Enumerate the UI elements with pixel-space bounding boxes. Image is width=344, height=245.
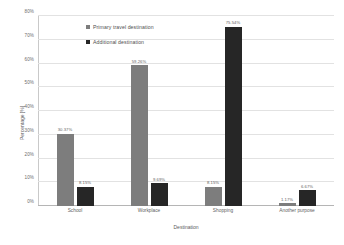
bar[interactable]: 75.54%	[225, 27, 242, 206]
bar-value-label: 1.17%	[281, 197, 293, 202]
bar[interactable]: 8.15%	[77, 187, 94, 206]
bar-value-label: 6.67%	[301, 184, 313, 189]
legend-label: Additional destination	[93, 39, 144, 45]
y-axis-tick-label: 60%	[25, 56, 35, 61]
y-axis-tick-label: 10%	[25, 175, 35, 180]
bar-value-label: 9.69%	[153, 177, 165, 182]
bar-slot: 75.54%	[225, 16, 242, 206]
legend-label: Primary travel destination	[93, 24, 154, 30]
bar-value-label: 59.26%	[132, 59, 147, 64]
x-axis-tick-label: Workplace	[112, 208, 186, 213]
x-axis-tick-label: Shopping	[186, 208, 260, 213]
bar-value-label: 8.15%	[79, 180, 91, 185]
legend-item[interactable]: Additional destination	[86, 39, 154, 45]
y-axis-tick-label: 20%	[25, 151, 35, 156]
bar-slot: 1.17%	[279, 16, 296, 206]
legend-item[interactable]: Primary travel destination	[86, 24, 154, 30]
y-axis-tick-label: 30%	[25, 127, 35, 132]
bar-groups: 30.37%8.15%59.26%9.69%8.15%75.54%1.17%6.…	[38, 16, 334, 206]
bar-slot: 6.67%	[299, 16, 316, 206]
bar[interactable]: 6.67%	[299, 190, 316, 206]
bar-group: 1.17%6.67%	[260, 16, 334, 206]
bar-slot: 30.37%	[57, 16, 74, 206]
x-axis-ticks: SchoolWorkplaceShoppingAnother purpose	[38, 208, 334, 213]
bar[interactable]: 1.17%	[279, 203, 296, 206]
bar-slot: 8.15%	[205, 16, 222, 206]
legend: Primary travel destinationAdditional des…	[86, 24, 154, 54]
bar[interactable]: 8.15%	[205, 187, 222, 206]
bar-chart: Percentage [%] 0%10%20%30%40%50%60%70%80…	[0, 0, 344, 245]
legend-swatch-icon	[86, 40, 90, 44]
bar[interactable]: 30.37%	[57, 134, 74, 206]
y-axis-tick-label: 70%	[25, 32, 35, 37]
bar-value-label: 75.54%	[226, 20, 241, 25]
y-axis-tick-label: 50%	[25, 80, 35, 85]
x-axis-title: Destination	[38, 224, 334, 230]
y-axis-tick-label: 0%	[27, 199, 34, 204]
y-axis-title: Percentage [%]	[19, 105, 25, 139]
bar[interactable]: 9.69%	[151, 183, 168, 206]
x-axis-tick-label: Another purpose	[260, 208, 334, 213]
plot-area: 0%10%20%30%40%50%60%70%80% 30.37%8.15%59…	[38, 16, 334, 206]
bar-value-label: 8.15%	[207, 180, 219, 185]
legend-swatch-icon	[86, 25, 90, 29]
y-axis-tick-label: 40%	[25, 104, 35, 109]
x-axis-tick-label: School	[38, 208, 112, 213]
bar-group: 8.15%75.54%	[186, 16, 260, 206]
bar[interactable]: 59.26%	[131, 65, 148, 206]
y-axis-tick-label: 80%	[25, 9, 35, 14]
bar-value-label: 30.37%	[58, 127, 73, 132]
